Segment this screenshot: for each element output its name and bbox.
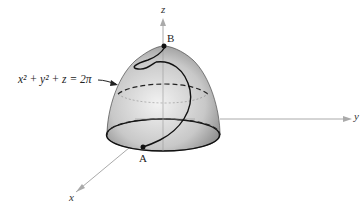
point-a-label: A: [139, 152, 147, 164]
x-axis-label: x: [69, 191, 74, 203]
surface-equation: x² + y² + z = 2π: [18, 73, 92, 85]
y-axis-label: y: [354, 110, 359, 122]
y-axis-arrow-icon: [343, 116, 352, 122]
point-b: [162, 44, 167, 49]
paraboloid-diagram: [0, 0, 362, 214]
pointer-arrow-icon: [110, 80, 118, 86]
z-axis-label: z: [161, 3, 165, 15]
point-b-label: B: [167, 32, 174, 44]
point-a: [141, 145, 146, 150]
z-axis-arrow-icon: [160, 18, 166, 26]
